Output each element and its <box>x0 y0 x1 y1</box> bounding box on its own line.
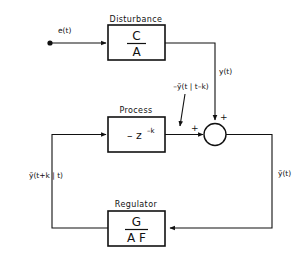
process-exponent: –k <box>147 127 156 135</box>
wire-prediction-to-sum <box>180 94 185 126</box>
block-title-regulator: Regulator <box>115 200 158 209</box>
wire-regulator-to-process <box>52 135 108 229</box>
signal-label-disturbance-output: y(t) <box>219 67 232 76</box>
sum-sign-top: + <box>220 112 228 122</box>
disturbance-numerator: C <box>132 29 140 43</box>
regulator-numerator: G <box>132 215 141 229</box>
signal-label-prediction-ahead: ỹ(t+k | t) <box>29 171 63 180</box>
diagram-svg: e(t) Disturbance C A y(t) + –ỹ(t | t–k) … <box>0 0 304 259</box>
signal-label-prediction-negative: –ỹ(t | t–k) <box>173 82 208 91</box>
summing-junction <box>204 124 226 146</box>
wire-sum-to-regulator <box>170 135 272 229</box>
signal-label-feedback-output: ỹ(t) <box>278 169 291 178</box>
process-expression: – z <box>127 129 142 142</box>
regulator-denominator: A F <box>127 231 146 245</box>
sum-sign-left: + <box>191 123 199 133</box>
disturbance-denominator: A <box>132 45 141 59</box>
block-title-process: Process <box>119 106 152 115</box>
block-title-disturbance: Disturbance <box>110 15 163 24</box>
signal-label-input: e(t) <box>58 26 71 35</box>
block-diagram-canvas: e(t) Disturbance C A y(t) + –ỹ(t | t–k) … <box>0 0 304 259</box>
